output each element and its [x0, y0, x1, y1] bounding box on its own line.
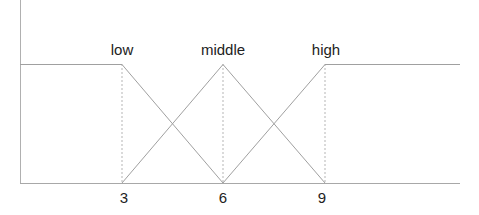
label-middle: middle — [201, 41, 245, 58]
tick-3: 3 — [120, 189, 128, 206]
tick-9: 9 — [318, 189, 326, 206]
label-high: high — [312, 41, 340, 58]
tick-6: 6 — [219, 189, 227, 206]
label-low: low — [111, 41, 134, 58]
series-high — [223, 65, 460, 184]
membership-diagram: low middle high 3 6 9 — [0, 0, 479, 215]
